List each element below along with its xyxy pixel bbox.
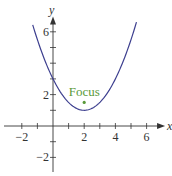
x-axis-label: x bbox=[166, 119, 172, 133]
x-tick-label: 6 bbox=[144, 130, 150, 144]
y-tick-label: −2 bbox=[36, 150, 49, 164]
focus-label: Focus bbox=[69, 84, 100, 99]
y-tick-label: 6 bbox=[43, 25, 49, 39]
x-tick-label: −2 bbox=[15, 130, 28, 144]
focus-point bbox=[83, 101, 86, 104]
y-axis-label: y bbox=[48, 3, 55, 17]
parabola-chart: x y −2246−226 Focus bbox=[0, 0, 172, 176]
y-tick-label: 2 bbox=[43, 88, 49, 102]
y-axis-arrow-icon bbox=[50, 16, 56, 24]
x-tick-label: 4 bbox=[112, 130, 118, 144]
x-tick-label: 2 bbox=[81, 130, 87, 144]
x-axis-arrow-icon bbox=[157, 123, 165, 129]
